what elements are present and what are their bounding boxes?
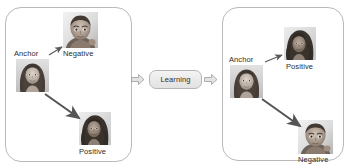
after-negative-face-image — [298, 120, 333, 154]
after-positive-face-image — [284, 27, 316, 60]
block-arrow-right-icon — [204, 73, 218, 86]
before-anchor-face-image — [16, 59, 49, 92]
before-negative-face-image — [63, 12, 98, 48]
before-positive-label: Positive — [79, 147, 106, 156]
before-anchor-label: Anchor — [14, 49, 38, 58]
learning-box[interactable]: Learning — [149, 70, 202, 89]
triplet-loss-figure: Negative Anchor — [0, 0, 353, 168]
learning-label: Learning — [161, 75, 191, 84]
block-arrow-right-icon — [131, 73, 145, 86]
after-anchor-label: Anchor — [229, 55, 253, 64]
after-positive-label: Positive — [286, 62, 313, 71]
after-anchor-face-image — [230, 65, 263, 98]
before-positive-face-image — [79, 112, 111, 145]
before-negative-label: Negative — [63, 49, 93, 58]
after-negative-label: Negative — [298, 155, 328, 164]
